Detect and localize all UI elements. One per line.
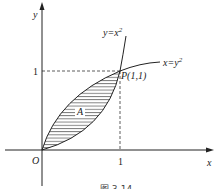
x-axis-arrow-icon — [206, 148, 214, 153]
figure-caption: 图 3-14 — [100, 184, 133, 189]
svg-text:y=x2: y=x2 — [102, 26, 123, 38]
diagram-canvas: y x O 1 1 y=x2 x=y2 A P(1,1) 图 3-14 — [0, 0, 218, 189]
y-tick-1: 1 — [33, 66, 38, 77]
origin-label: O — [32, 155, 39, 166]
y-axis-label: y — [32, 9, 38, 20]
region-label-a: A — [76, 106, 84, 117]
y-axis-arrow-icon — [40, 2, 45, 10]
x-axis-label: x — [206, 157, 212, 168]
label-x-eq-y2: x=y2 — [162, 56, 183, 68]
label-y-eq-x2: y=x2 — [102, 26, 123, 38]
svg-text:x=y2: x=y2 — [162, 56, 183, 68]
x-tick-1: 1 — [118, 156, 123, 167]
point-p-label: P(1,1) — [120, 70, 147, 82]
